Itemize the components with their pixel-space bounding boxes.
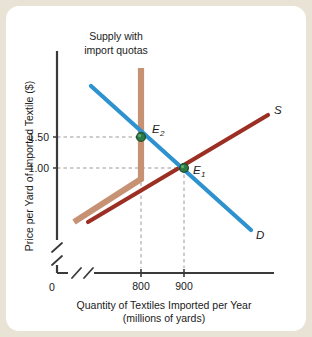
quota-annotation-line2: import quotas <box>84 44 148 56</box>
x-axis-break-mark-1 <box>72 268 81 278</box>
equilibrium-point-e1 <box>180 164 189 173</box>
quota-annotation-line1: Supply with <box>89 30 143 42</box>
demand-curve-label: D <box>256 229 264 241</box>
equilibrium-dot-e1-highlight <box>181 165 184 168</box>
x-axis-break-mark-2 <box>84 268 93 278</box>
equilibrium-label-e1-sub: 1 <box>201 170 205 179</box>
x-axis-title-line2: (millions of yards) <box>123 312 205 324</box>
demand-curve <box>91 86 251 230</box>
equilibrium-dot-e1 <box>180 164 189 173</box>
equilibrium-label-e2-sub: 2 <box>159 129 165 138</box>
supply-curve <box>88 115 268 222</box>
y-axis-break-mark-1 <box>52 243 62 252</box>
figure-panel: Supply with import quotas Price per Yard… <box>6 6 306 331</box>
equilibrium-dot-e2-highlight <box>138 134 141 137</box>
equilibrium-label-e2: E 2 <box>152 123 165 138</box>
y-tick-label-100: 1.00 <box>29 162 50 174</box>
x-tick-label-900: 900 <box>175 280 193 292</box>
x-tick-label-800: 800 <box>132 280 150 292</box>
equilibrium-dot-e2 <box>137 133 146 142</box>
equilibrium-label-e2-base: E <box>152 123 160 135</box>
supply-demand-chart: Supply with import quotas Price per Yard… <box>6 6 306 331</box>
y-axis-break-mark-2 <box>52 256 62 265</box>
y-tick-label-150: 1.50 <box>29 131 50 143</box>
supply-curve-label: S <box>274 104 282 116</box>
axes <box>52 51 274 278</box>
equilibrium-label-e1-base: E <box>193 164 201 176</box>
origin-label: 0 <box>49 281 55 293</box>
x-axis-title-line1: Quantity of Textiles Imported per Year <box>77 299 252 311</box>
equilibrium-point-e2 <box>137 133 146 142</box>
